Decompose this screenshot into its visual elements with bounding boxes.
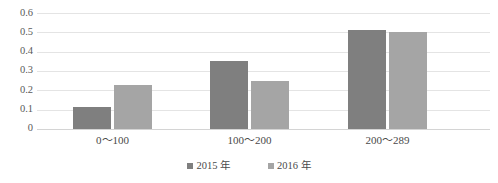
bar-2015 — [210, 61, 248, 129]
legend-item-2016[interactable]: 2016 年 — [268, 160, 311, 172]
chart-title-remnant: —— ——— — [300, 0, 480, 5]
bar-2016 — [114, 85, 152, 129]
bar-2016 — [389, 32, 427, 129]
bar-2016 — [251, 81, 289, 129]
chart-legend: 2015 年 2016 年 — [0, 160, 498, 172]
bar-group — [210, 13, 289, 129]
y-axis-tick: 0.4 — [3, 46, 33, 57]
legend-swatch-icon — [268, 163, 274, 169]
bar-2015 — [348, 30, 386, 129]
bar-2015 — [73, 107, 111, 129]
axis-baseline — [37, 129, 490, 130]
x-axis: 0～100 100～200 200～289 — [37, 134, 490, 154]
bar-groups — [37, 13, 490, 129]
bar-chart: —— ——— 0.6 0.5 0.4 0.3 0.2 0.1 0 — [0, 0, 498, 183]
y-axis-tick: 0.1 — [3, 104, 33, 115]
x-axis-label: 200～289 — [348, 134, 427, 147]
y-axis-tick: 0.5 — [3, 27, 33, 38]
y-axis: 0.6 0.5 0.4 0.3 0.2 0.1 0 — [0, 13, 33, 129]
legend-label: 2015 年 — [196, 160, 230, 172]
bar-group — [348, 13, 427, 129]
x-axis-label: 100～200 — [210, 134, 289, 147]
legend-swatch-icon — [187, 163, 193, 169]
bar-group — [73, 13, 152, 129]
y-axis-tick: 0.6 — [3, 8, 33, 19]
legend-label: 2016 年 — [277, 160, 311, 172]
y-axis-tick: 0.3 — [3, 65, 33, 76]
legend-item-2015[interactable]: 2015 年 — [187, 160, 230, 172]
x-axis-label: 0～100 — [73, 134, 152, 147]
y-axis-tick: 0.2 — [3, 85, 33, 96]
y-axis-tick: 0 — [3, 123, 33, 134]
